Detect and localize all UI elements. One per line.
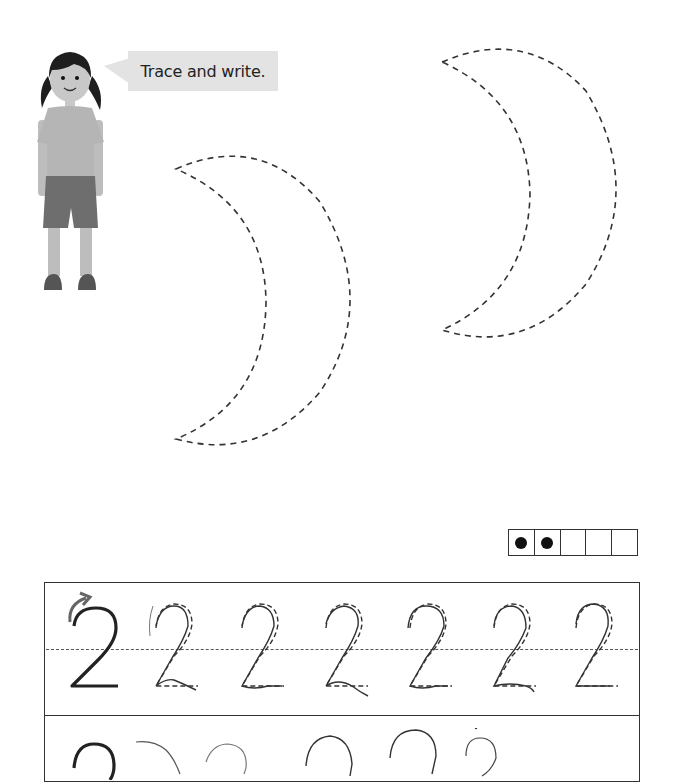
- handwritten-2-attempt-4: [390, 730, 436, 774]
- handwritten-2-attempt-2: [206, 744, 246, 774]
- shirt: [37, 106, 104, 176]
- row-divider: [44, 715, 640, 716]
- leg-left: [48, 228, 60, 276]
- speech-bubble-tail: [104, 56, 130, 86]
- handwritten-2-attempt-5: [466, 738, 496, 776]
- model-digit-2: [68, 606, 124, 690]
- crescent-moon-tracing-right[interactable]: [436, 46, 646, 346]
- frame-cell-2: [535, 530, 561, 555]
- shoe-right: [78, 274, 96, 290]
- eye-left: [61, 76, 65, 80]
- frame-cell-1: [509, 530, 535, 555]
- handwritten-2-attempt-3: [306, 736, 352, 776]
- girl-character-illustration: [34, 48, 108, 294]
- handwritten-attempts-row[interactable]: [130, 728, 530, 778]
- eye-right: [75, 76, 79, 80]
- shoe-left: [44, 274, 62, 290]
- traced-digits-row[interactable]: [140, 600, 630, 700]
- five-frame: [508, 529, 638, 556]
- traced-digit-2: [149, 604, 198, 690]
- handwritten-2-attempt-1: [136, 742, 180, 774]
- frame-cell-3: [561, 530, 587, 555]
- leg-right: [80, 228, 92, 276]
- instruction-text: Trace and write.: [128, 51, 278, 91]
- counter-dot: [541, 537, 553, 549]
- speech-bubble: Trace and write.: [128, 51, 278, 91]
- model-digit-2-write-row: [70, 740, 126, 780]
- frame-cell-5: [612, 530, 637, 555]
- frame-cell-4: [586, 530, 612, 555]
- crescent-moon-tracing-left[interactable]: [170, 152, 380, 452]
- shorts: [43, 176, 98, 228]
- counter-dot: [515, 537, 527, 549]
